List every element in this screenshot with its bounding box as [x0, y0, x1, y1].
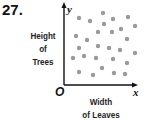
data-point [123, 72, 127, 76]
data-point [82, 54, 86, 58]
data-point [88, 19, 92, 23]
data-point [77, 16, 81, 20]
data-point [126, 15, 130, 19]
data-point [119, 27, 123, 31]
data-point [100, 66, 104, 70]
data-point [96, 30, 100, 34]
data-point [102, 22, 106, 26]
origin-label: O [55, 85, 65, 99]
data-point [94, 56, 98, 60]
data-point [125, 37, 129, 41]
data-point [133, 24, 137, 28]
data-point [110, 30, 114, 34]
data-points [71, 11, 137, 77]
data-point [107, 46, 111, 50]
x-axis-letter: x [132, 86, 139, 98]
y-axis-letter: y [65, 3, 72, 15]
data-point [101, 11, 105, 15]
data-point [118, 48, 122, 52]
data-point [77, 70, 81, 74]
data-point [125, 61, 129, 65]
data-point [133, 51, 137, 55]
data-point [71, 56, 75, 60]
scatter-plot: y x O [0, 0, 145, 121]
data-point [96, 44, 100, 48]
data-point [112, 71, 116, 75]
y-arrow-icon [62, 2, 67, 8]
data-point [85, 38, 89, 42]
data-point [91, 73, 95, 77]
data-point [111, 57, 115, 61]
data-point [77, 46, 81, 50]
data-point [74, 34, 78, 38]
data-point [111, 17, 115, 21]
